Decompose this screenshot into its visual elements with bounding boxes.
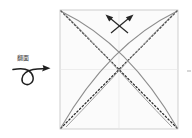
turn-over-loop-arrow — [13, 65, 51, 85]
flip-over-label: 翻面 — [17, 54, 29, 61]
origami-diagram — [0, 0, 192, 138]
